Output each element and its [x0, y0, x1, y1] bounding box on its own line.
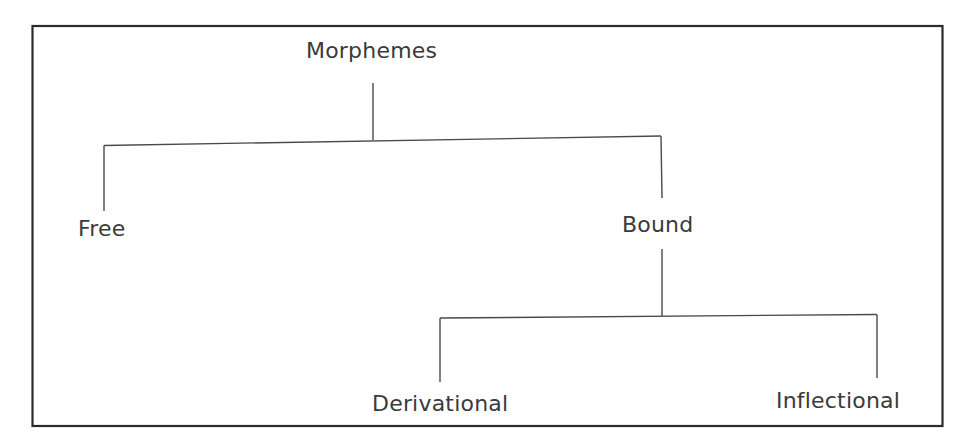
node-free: Free: [78, 218, 126, 240]
node-bound: Bound: [622, 214, 693, 236]
node-morphemes: Morphemes: [306, 40, 437, 62]
diagram-frame: [33, 26, 943, 426]
edge-root-to-bound: [661, 136, 662, 198]
morpheme-tree-diagram: Morphemes Free Bound Derivational Inflec…: [0, 0, 972, 446]
node-inflectional: Inflectional: [776, 390, 900, 412]
edge-root-crossbar: [104, 136, 661, 146]
node-derivational: Derivational: [372, 393, 508, 415]
edge-bound-crossbar: [440, 315, 877, 319]
diagram-canvas: [0, 0, 972, 446]
